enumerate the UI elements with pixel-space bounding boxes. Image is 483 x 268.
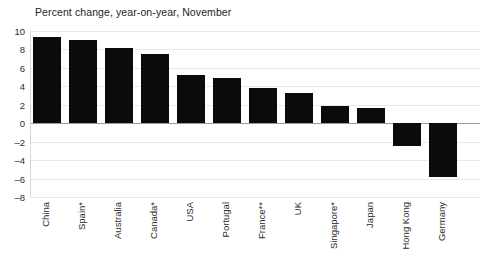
x-axis-tick: UK (280, 200, 316, 268)
x-axis-tick-label: Canada* (149, 202, 159, 239)
x-axis-tick: France** (244, 200, 280, 268)
gridline (31, 179, 480, 180)
y-axis-tick-label: –2 (0, 136, 25, 147)
x-axis-tick: Australia (100, 200, 136, 268)
x-axis-tick-label: UK (293, 202, 303, 215)
y-axis-tick-label: 0 (0, 118, 25, 129)
y-axis-tick-label: –4 (0, 155, 25, 166)
x-axis-tick: Japan (352, 200, 388, 268)
x-axis-tick: China (28, 200, 64, 268)
y-axis-tick-label: 10 (0, 26, 25, 37)
x-axis-tick-label: Japan (365, 202, 375, 228)
bar (105, 48, 133, 124)
bar (321, 106, 349, 124)
bar (429, 123, 457, 176)
x-axis-tick: Portugal (208, 200, 244, 268)
gridline (31, 197, 480, 198)
bar (357, 108, 385, 123)
x-axis-tick: Germany (424, 200, 460, 268)
chart-title: Percent change, year-on-year, November (35, 6, 231, 18)
x-axis-tick: Canada* (136, 200, 172, 268)
gridline (31, 49, 480, 50)
x-axis-tick-label: Australia (113, 202, 123, 239)
y-axis-tick-label: –6 (0, 173, 25, 184)
x-axis-tick: Singapore* (316, 200, 352, 268)
x-axis-tick-label: France** (257, 202, 267, 239)
y-axis-tick-label: 6 (0, 62, 25, 73)
bar-chart: Percent change, year-on-year, November 1… (0, 0, 483, 268)
x-axis-tick-label: Hong Kong (401, 202, 411, 250)
plot-area: 1086420–2–4–6–8 (30, 31, 480, 197)
y-axis-tick-label: 2 (0, 99, 25, 110)
gridline (31, 160, 480, 161)
bar (141, 54, 169, 123)
x-axis-tick-label: Spain* (77, 202, 87, 230)
x-axis-labels: ChinaSpain*AustraliaCanada*USAPortugalFr… (30, 200, 479, 268)
bar (249, 88, 277, 123)
y-axis-tick-label: 8 (0, 44, 25, 55)
x-axis-tick-label: Portugal (221, 202, 231, 237)
x-axis-tick-label: China (41, 202, 51, 227)
x-axis-tick-label: Singapore* (329, 202, 339, 249)
x-axis-tick: USA (172, 200, 208, 268)
y-axis-tick-label: –8 (0, 192, 25, 203)
x-axis-tick-label: Germany (437, 202, 447, 241)
x-axis-tick-label: USA (185, 202, 195, 222)
gridline (31, 68, 480, 69)
bar (213, 78, 241, 123)
x-axis-tick: Spain* (64, 200, 100, 268)
bar (69, 40, 97, 123)
bar (393, 123, 421, 146)
gridline (31, 31, 480, 32)
bar (285, 93, 313, 123)
gridline (31, 86, 480, 87)
bar (33, 37, 61, 123)
y-axis-tick-label: 4 (0, 81, 25, 92)
bar (177, 75, 205, 123)
x-axis-tick: Hong Kong (388, 200, 424, 268)
